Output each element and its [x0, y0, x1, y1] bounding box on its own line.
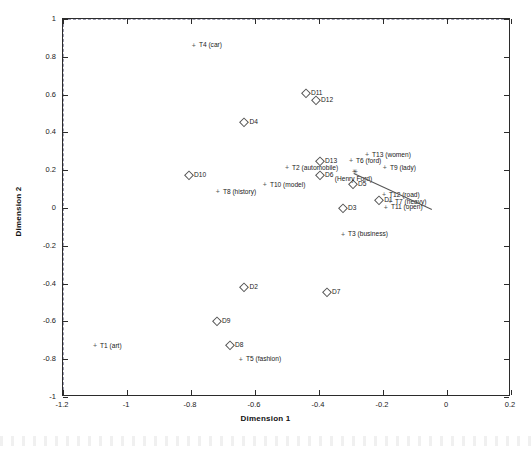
- x-tick: [447, 19, 448, 24]
- data-point-marker: [225, 340, 234, 349]
- y-tick-label: 0.2: [46, 165, 56, 174]
- x-tick: [319, 390, 320, 395]
- y-tick: [504, 321, 509, 322]
- scan-artifact: [0, 436, 531, 446]
- x-axis-title: Dimension 1: [0, 414, 531, 423]
- y-tick: [63, 132, 68, 133]
- y-tick: [504, 397, 509, 398]
- data-point-marker: [239, 358, 242, 361]
- x-tick-label: -1: [123, 400, 130, 409]
- x-tick: [319, 19, 320, 24]
- x-tick: [191, 19, 192, 24]
- data-point-marker: [94, 344, 97, 347]
- data-point-label: D4: [249, 119, 257, 126]
- data-point-marker: [342, 233, 345, 236]
- data-point-label: D6: [325, 172, 333, 179]
- y-tick: [504, 170, 509, 171]
- x-tick-label: 0.2: [505, 400, 515, 409]
- y-tick-label: -0.2: [43, 240, 56, 249]
- y-tick-label: -1: [49, 392, 56, 401]
- data-point-marker: [216, 190, 219, 193]
- y-tick: [63, 95, 68, 96]
- x-tick-label: -1.2: [56, 400, 69, 409]
- y-tick: [504, 19, 509, 20]
- data-point-marker: [240, 117, 249, 126]
- y-tick: [63, 321, 68, 322]
- y-tick-label: 0.4: [46, 127, 56, 136]
- data-point-marker: [366, 153, 369, 156]
- data-point-marker: [350, 159, 353, 162]
- y-tick-label: 0: [52, 203, 56, 212]
- y-tick: [63, 208, 68, 209]
- y-tick: [504, 208, 509, 209]
- y-tick-label: -0.6: [43, 316, 56, 325]
- data-point-label: D2: [249, 284, 257, 291]
- data-point-label: D9: [222, 318, 230, 325]
- data-point-label: T2 (automobile): [292, 165, 338, 172]
- zero-vertical-reference-line: [63, 19, 64, 395]
- y-tick: [63, 170, 68, 171]
- x-tick: [127, 19, 128, 24]
- data-point-label: T9 (lady): [390, 165, 416, 172]
- data-point-marker: [263, 183, 266, 186]
- zero-horizontal-reference-line: [63, 19, 509, 20]
- x-tick-label: -0.6: [248, 400, 261, 409]
- data-point-label: T11 (open): [391, 204, 423, 211]
- x-tick: [383, 19, 384, 24]
- data-point-marker: [315, 170, 324, 179]
- data-point-label: D12: [321, 97, 333, 104]
- y-tick: [504, 57, 509, 58]
- x-tick: [127, 390, 128, 395]
- data-point-marker: [312, 95, 321, 104]
- data-point-label: T3 (business): [348, 231, 388, 238]
- data-point-marker: [301, 88, 310, 97]
- x-tick: [255, 390, 256, 395]
- x-tick: [191, 390, 192, 395]
- data-point-label: T13 (women): [372, 152, 411, 159]
- data-point-label: T6 (ford): [356, 158, 381, 165]
- y-tick: [504, 359, 509, 360]
- data-point-label: T4 (car): [199, 42, 222, 49]
- x-tick-label: -0.8: [184, 400, 197, 409]
- y-tick: [63, 57, 68, 58]
- y-tick: [63, 359, 68, 360]
- data-point-label: D7: [332, 289, 340, 296]
- y-tick: [63, 397, 68, 398]
- x-tick: [255, 19, 256, 24]
- y-tick: [504, 284, 509, 285]
- y-tick: [63, 246, 68, 247]
- y-tick: [63, 284, 68, 285]
- y-axis-title: Dimension 2: [14, 22, 23, 402]
- x-tick-label: -0.2: [376, 400, 389, 409]
- figure-canvas: D1D2D3D4D5D6D7D8D9D10D11D12D13T1 (art)T2…: [0, 0, 531, 452]
- data-point-label: D10: [194, 172, 206, 179]
- data-point-marker: [383, 166, 386, 169]
- y-tick-label: 1: [52, 14, 56, 23]
- y-tick-label: 0.8: [46, 51, 56, 60]
- y-tick: [63, 19, 68, 20]
- x-tick-label: 0: [444, 400, 448, 409]
- data-point-label: T5 (fashion): [246, 356, 281, 363]
- y-tick: [504, 246, 509, 247]
- data-point-label: T1 (art): [100, 343, 122, 350]
- data-point-marker: [192, 44, 195, 47]
- data-point-marker: [240, 282, 249, 291]
- y-tick-label: -0.4: [43, 278, 56, 287]
- data-point-marker: [184, 170, 193, 179]
- y-tick: [504, 95, 509, 96]
- x-tick: [447, 390, 448, 395]
- data-point-marker: [384, 206, 387, 209]
- x-tick-label: -0.4: [312, 400, 325, 409]
- x-tick: [511, 390, 512, 395]
- y-tick-label: 0.6: [46, 89, 56, 98]
- x-tick: [63, 390, 64, 395]
- data-point-marker: [212, 316, 221, 325]
- plot-area: D1D2D3D4D5D6D7D8D9D10D11D12D13T1 (art)T2…: [62, 18, 510, 396]
- y-tick: [504, 132, 509, 133]
- x-tick: [511, 19, 512, 24]
- data-point-label: D8: [235, 342, 243, 349]
- data-point-marker: [322, 287, 331, 296]
- data-point-label: T10 (model): [270, 182, 306, 189]
- data-point-marker: [338, 204, 347, 213]
- data-point-marker: [382, 193, 385, 196]
